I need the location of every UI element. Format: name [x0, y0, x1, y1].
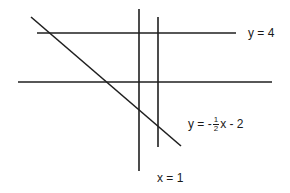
graph-diagram — [0, 0, 290, 193]
label-y-equals-4: y = 4 — [248, 27, 274, 39]
label-diagonal-equation: y = -12x - 2 — [188, 116, 243, 133]
label-diagonal-prefix: y = - — [188, 117, 212, 131]
fraction-denominator: 2 — [214, 125, 218, 133]
label-x-equals-1: x = 1 — [157, 172, 183, 184]
fraction-one-half: 12 — [213, 116, 219, 133]
label-diagonal-suffix: x - 2 — [220, 117, 243, 131]
